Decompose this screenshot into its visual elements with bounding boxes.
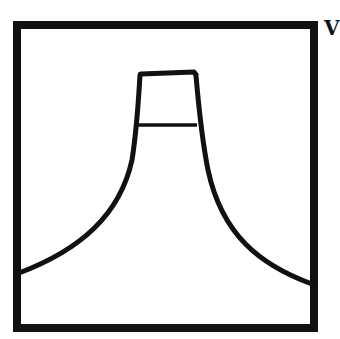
square-frame bbox=[17, 25, 314, 328]
cropped-letter: V bbox=[324, 18, 340, 38]
tower-right-flank bbox=[196, 76, 312, 284]
tower-top-cap bbox=[139, 72, 197, 76]
tower-left-flank bbox=[19, 75, 140, 273]
